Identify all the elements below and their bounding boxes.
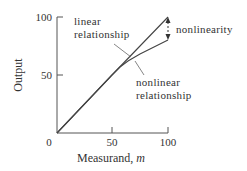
nonlinear-label-line-1: nonlinear	[136, 76, 180, 88]
y-tick-label-100: 100	[36, 11, 53, 23]
nonlinearity-arrow	[166, 17, 171, 40]
linear-label-line-2: relationship	[74, 28, 130, 40]
x-axis-title-symbol: m	[136, 151, 145, 165]
x-tick-label-50: 50	[107, 136, 119, 148]
nonlinear-leader-line	[135, 61, 144, 75]
x-axis-title-text: Measurand,	[77, 151, 136, 165]
x-tick-label-100: 100	[160, 136, 177, 148]
y-tick-label-50: 50	[41, 69, 53, 81]
x-axis-title: Measurand, m	[77, 151, 145, 165]
arrow-down-icon	[166, 34, 171, 40]
nonlinear-label-line-2: relationship	[136, 89, 192, 101]
linear-leader-line	[114, 44, 131, 57]
arrow-up-icon	[166, 17, 171, 23]
linear-relationship-label: linear relationship	[74, 15, 130, 40]
linear-label-line-1: linear	[74, 15, 101, 27]
nonlinearity-label: nonlinearity	[176, 23, 233, 35]
chart: 100 50 0 50 100 Output Measurand, m line…	[0, 0, 247, 171]
nonlinear-relationship-label: nonlinear relationship	[136, 76, 192, 101]
y-axis-title: Output	[11, 58, 25, 92]
x-tick-label-0: 0	[46, 136, 52, 148]
